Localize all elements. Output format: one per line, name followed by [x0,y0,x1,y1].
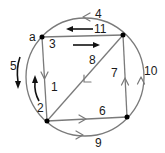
edge-label-2: 2 [37,101,44,115]
traversal-arrow-5-head-icon [15,81,21,89]
vertex-label-a: a [29,30,36,44]
edge-label-7: 7 [111,66,118,80]
edge-label-5: 5 [10,59,17,73]
traversal-arrow-5 [17,57,20,82]
edge-label-6: 6 [99,104,106,118]
traversal-arrow-2-head-icon [32,75,38,83]
edge-label-1: 1 [51,80,58,94]
edge-label-4: 4 [95,7,102,21]
vertex-bottom-left [45,119,50,124]
edge-4-arrow-icon [83,13,90,21]
edge-label-8: 8 [89,53,96,67]
euler-circuit-diagram: a 3 11 4 5 1 2 8 7 10 6 9 [0,0,165,153]
traversal-arrow-11-head-icon [66,26,73,32]
edge-label-10: 10 [144,64,158,78]
edge-label-9: 9 [95,136,102,150]
vertex-top-right [121,33,126,38]
vertex-bottom-right [125,115,130,120]
traversal-arrow-3-head-icon [93,42,100,48]
vertex-a [40,35,45,40]
traversal-arrow-2 [35,82,39,101]
edge-label-11: 11 [94,22,107,36]
edge-label-3: 3 [49,37,56,51]
edge-7 [123,35,127,117]
edge-6 [47,117,127,121]
